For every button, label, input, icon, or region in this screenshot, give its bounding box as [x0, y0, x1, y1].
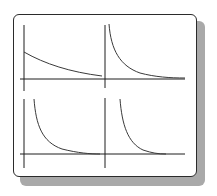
figure: [0, 0, 217, 196]
curve-bottom-right-fast-decay: [120, 99, 166, 154]
axes: [20, 25, 185, 168]
curve-top-left-slow-decay: [24, 52, 102, 76]
curve-top-right-decay: [109, 24, 185, 78]
curve-bottom-left-fast-decay: [34, 99, 100, 154]
decay-curves-plot: [0, 0, 217, 196]
